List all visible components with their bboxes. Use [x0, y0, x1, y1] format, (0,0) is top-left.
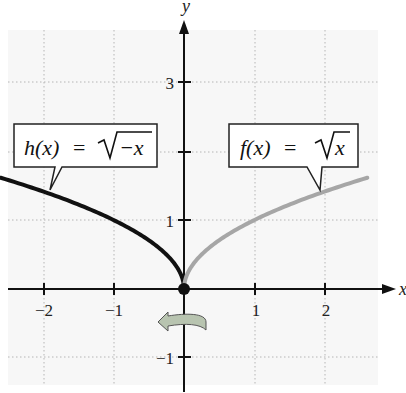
f-label-text: f(x) = [240, 135, 296, 160]
x-axis-arrow-icon [382, 284, 396, 294]
h-label-text: h(x) = [24, 135, 85, 160]
x-tick-label: 2 [322, 301, 331, 320]
y-tick-label: 3 [166, 74, 175, 93]
f-radicand: x [334, 135, 345, 160]
x-tick-label: 1 [252, 301, 261, 320]
h-radicand: −x [119, 135, 144, 160]
x-tick-label: −2 [35, 301, 53, 320]
y-axis-label: y [180, 0, 190, 16]
y-tick-label: 1 [166, 212, 175, 231]
chart: −2 −1 1 2 3 1 −1 y x h(x) = −x f(x) = x [0, 0, 406, 393]
origin-point [178, 283, 190, 295]
plot-area [8, 30, 378, 385]
x-axis-label: x [398, 279, 406, 299]
y-axis-arrow-icon [179, 20, 189, 34]
x-tick-label: −1 [105, 301, 123, 320]
y-tick-label: −1 [156, 349, 174, 368]
